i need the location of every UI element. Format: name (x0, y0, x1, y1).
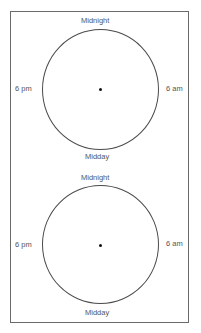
clock-diagram-2: Midnight 6 pm 6 am Midday (0, 0, 201, 333)
label-midday: Midday (85, 309, 109, 317)
center-dot (99, 244, 102, 247)
label-6am: 6 am (166, 240, 183, 248)
label-6pm: 6 pm (15, 241, 32, 249)
label-midnight: Midnight (81, 174, 109, 182)
